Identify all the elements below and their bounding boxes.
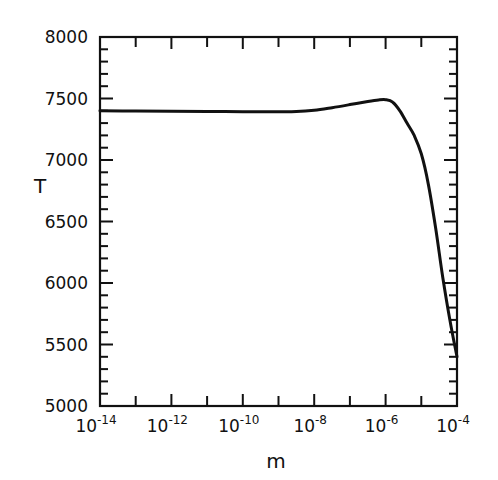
x-tick-label: 10-10 — [218, 413, 259, 436]
chart: 5000550060006500700075008000 10-1410-121… — [0, 0, 498, 480]
y-tick-label: 8000 — [45, 27, 88, 47]
x-tick-label: 10-8 — [293, 413, 327, 436]
x-axis-ticks — [100, 37, 457, 406]
data-line — [100, 100, 457, 357]
y-axis-tick-labels: 5000550060006500700075008000 — [45, 27, 88, 416]
y-tick-label: 7500 — [45, 89, 88, 109]
x-tick-label: 10-6 — [365, 413, 399, 436]
y-tick-label: 7000 — [45, 150, 88, 170]
y-axis-ticks — [100, 37, 457, 406]
x-axis-tick-labels: 10-1410-1210-1010-810-610-4 — [75, 413, 469, 436]
x-tick-label: 10-12 — [147, 413, 188, 436]
x-tick-label: 10-14 — [75, 413, 116, 436]
plot-area — [100, 37, 457, 406]
x-tick-label: 10-4 — [436, 413, 470, 436]
y-axis-title: T — [33, 174, 47, 198]
y-tick-label: 6000 — [45, 273, 88, 293]
y-tick-label: 5000 — [45, 396, 88, 416]
y-tick-label: 6500 — [45, 212, 88, 232]
y-tick-label: 5500 — [45, 335, 88, 355]
x-axis-title: m — [266, 449, 285, 473]
